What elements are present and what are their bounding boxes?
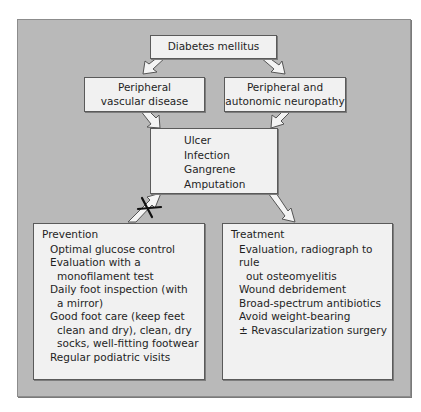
prevention-item: Daily foot inspection (with a mirror) [42,283,204,310]
prevention-item: Evaluation with a monofilament test [42,256,204,283]
outcome-amputation: Amputation [184,177,277,192]
outcome-infection: Infection [184,148,277,163]
treatment-item: ± Revascularization surgery [231,324,392,338]
treatment-box: Treatment Evaluation, radiograph to rule… [222,223,393,380]
peripheral-vascular-disease-box: Peripheral vascular disease [84,77,205,112]
pvd-line-1: Peripheral [85,81,204,95]
outcome-ulcer: Ulcer [184,133,277,148]
diabetes-mellitus-label: Diabetes mellitus [151,40,276,54]
pvd-line-2: vascular disease [85,95,204,109]
prevention-item: Regular podiatric visits [42,351,204,365]
prevention-item: Good foot care (keep feet clean and dry)… [42,310,204,351]
prevention-title: Prevention [42,228,204,242]
outcome-gangrene: Gangrene [184,162,277,177]
treatment-item: Evaluation, radiograph to rule out osteo… [231,243,392,284]
diabetes-mellitus-box: Diabetes mellitus [150,35,277,59]
treatment-item: Avoid weight-bearing [231,310,392,324]
neuropathy-box: Peripheral and autonomic neuropathy [224,77,346,112]
treatment-item: Wound debridement [231,283,392,297]
prevention-item: Optimal glucose control [42,243,204,257]
prevention-box: Prevention Optimal glucose control Evalu… [33,223,205,380]
outcomes-box: Ulcer Infection Gangrene Amputation [150,128,278,194]
treatment-title: Treatment [231,228,392,242]
treatment-item: Broad-spectrum antibiotics [231,297,392,311]
neuropathy-line-2: autonomic neuropathy [225,95,345,109]
neuropathy-line-1: Peripheral and [225,81,345,95]
